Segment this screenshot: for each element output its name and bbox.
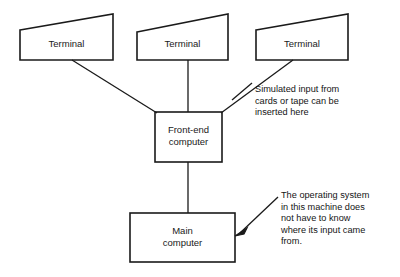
- connector-terminal-1-to-frontend: [72, 60, 157, 113]
- arrowhead-to-main-computer: [235, 228, 247, 236]
- terminal-2-shape[interactable]: [137, 14, 228, 60]
- terminal-3-shape[interactable]: [256, 14, 348, 60]
- annotation-simulated-input: Simulated input from cards or tape can b…: [255, 84, 395, 119]
- main-computer-shape[interactable]: [130, 213, 235, 262]
- frontend-computer-shape[interactable]: [155, 112, 222, 162]
- terminal-1-shape[interactable]: [20, 14, 113, 60]
- leader-line-operating-system: [240, 197, 278, 233]
- annotation-operating-system: The operating system in this machine doe…: [281, 190, 399, 248]
